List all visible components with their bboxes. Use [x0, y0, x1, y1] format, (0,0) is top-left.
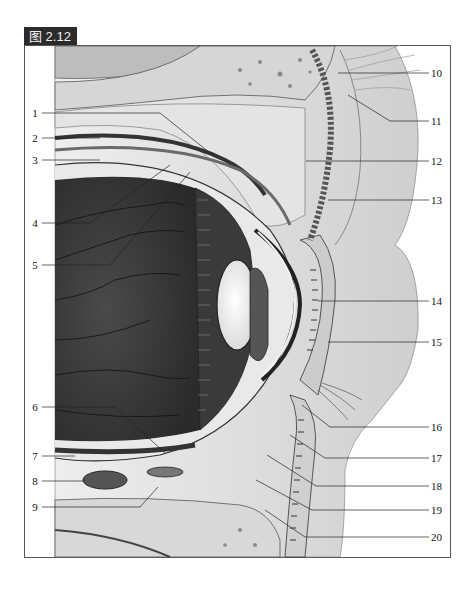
inferior-tarsal — [147, 467, 183, 477]
label-17: 17 — [431, 452, 442, 464]
label-18: 18 — [431, 480, 442, 492]
inferior-oblique — [83, 471, 127, 489]
label-13: 13 — [431, 194, 442, 206]
label-5: 5 — [30, 259, 40, 271]
label-2: 2 — [30, 132, 40, 144]
label-16: 16 — [431, 421, 442, 433]
label-11: 11 — [431, 115, 442, 127]
vitreous-body — [55, 177, 200, 442]
eye-anatomy-illustration — [0, 0, 475, 591]
label-7: 7 — [30, 450, 40, 462]
label-6: 6 — [30, 401, 40, 413]
label-1: 1 — [30, 107, 40, 119]
label-3: 3 — [30, 154, 40, 166]
label-12: 12 — [431, 155, 442, 167]
label-14: 14 — [431, 295, 442, 307]
iris — [250, 268, 268, 360]
label-15: 15 — [431, 336, 442, 348]
label-4: 4 — [30, 217, 40, 229]
label-20: 20 — [431, 531, 442, 543]
label-8: 8 — [30, 475, 40, 487]
label-19: 19 — [431, 504, 442, 516]
label-9: 9 — [30, 501, 40, 513]
label-10: 10 — [431, 67, 442, 79]
